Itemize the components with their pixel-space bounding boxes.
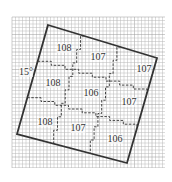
puzzle-diagram: 15° 108107107108106107108107106 [0, 0, 172, 182]
region-label: 108 [38, 117, 53, 127]
region-label: 108 [57, 43, 72, 53]
region-label: 106 [84, 88, 99, 98]
region-label: 107 [71, 123, 86, 133]
region-label: 107 [91, 52, 106, 62]
region-label: 106 [108, 134, 123, 144]
region-label: 107 [137, 64, 152, 74]
region-label: 107 [122, 97, 137, 107]
region-label: 108 [46, 78, 61, 88]
angle-label: 15° [19, 67, 33, 77]
